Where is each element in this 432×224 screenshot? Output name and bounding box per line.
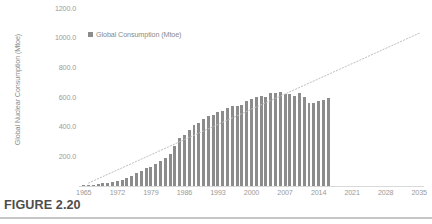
y-axis-tick-label: 400.0 [38,122,76,131]
legend-swatch-icon [88,32,93,37]
caption-divider [0,217,432,219]
y-axis-tick-label: 200.0 [38,152,76,161]
legend-label: Global Consumption (Mtoe) [96,30,181,39]
chart-legend: Global Consumption (Mtoe) [88,30,181,39]
y-axis-tick-label: 800.0 [38,63,76,72]
figure-caption: FIGURE 2.20 [4,198,81,212]
x-axis-tick-label: 2035 [399,188,432,197]
figure-caption-block: FIGURE 2.20 [0,197,432,224]
y-axis-tick-label: 1000.0 [38,33,76,42]
chart-area: Global Nuclear Consumption (Mtoe) 1200.0… [0,0,432,198]
y-axis-tick-label: 600.0 [38,93,76,102]
y-axis-title: Global Nuclear Consumption (Mtoe) [13,10,22,170]
figure-container: Global Nuclear Consumption (Mtoe) 1200.0… [0,0,432,224]
y-axis-tick-label: 1200.0 [38,4,76,13]
